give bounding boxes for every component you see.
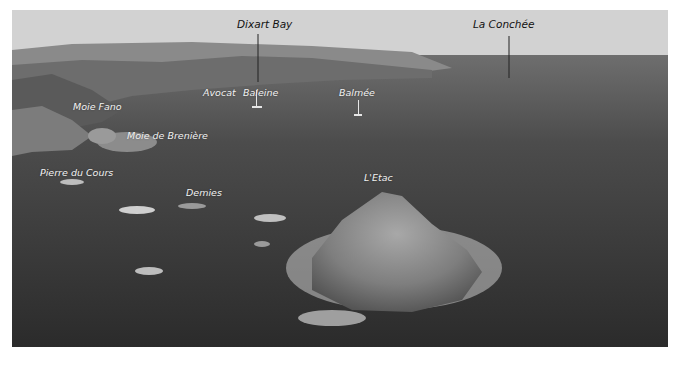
- aerial-photo: Dixart Bay La Conchée Avocat Baleine Bal…: [12, 10, 668, 347]
- label-balmee: Balmée: [339, 87, 375, 98]
- label-letac: L'Etac: [364, 172, 393, 183]
- label-baleine: Baleine: [243, 87, 278, 98]
- label-moie-de-breniere: Moie de Brenière: [127, 130, 208, 141]
- label-avocat: Avocat: [203, 87, 236, 98]
- label-la-conchee: La Conchée: [473, 18, 534, 30]
- label-dixart-bay: Dixart Bay: [237, 18, 292, 30]
- photo-scene: [12, 10, 668, 347]
- label-moie-fano: Moie Fano: [73, 101, 122, 112]
- label-demies: Demies: [186, 187, 222, 198]
- label-pierre-du-cours: Pierre du Cours: [40, 167, 113, 178]
